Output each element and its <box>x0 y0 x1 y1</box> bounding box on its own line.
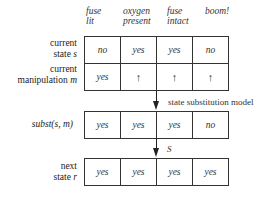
up-arrow-icon: ↑ <box>121 64 157 91</box>
cell: yes <box>121 159 157 186</box>
column-header-line: oxygen <box>123 6 151 16</box>
column-header-oxygen-present: oxygen present <box>123 6 151 26</box>
up-arrow-icon: ↑ <box>193 64 229 91</box>
cell: yes <box>121 37 157 64</box>
cell: yes <box>157 112 193 139</box>
cell: yes <box>85 112 121 139</box>
cell: yes <box>157 37 193 64</box>
column-header-line: lit <box>86 16 101 26</box>
row-label-line: manipulation m <box>18 75 77 86</box>
down-arrow-icon <box>153 101 159 110</box>
next-state-row: yes yes yes yes <box>85 159 229 186</box>
row-label-variable: s <box>73 49 77 59</box>
arrow-label-S: S <box>167 144 172 154</box>
row-label-variable: m <box>70 75 77 85</box>
next-state-grid: yes yes yes yes <box>84 158 229 186</box>
row-label-line: state r <box>54 172 78 183</box>
cell: no <box>85 37 121 64</box>
row-label-text: state <box>54 172 74 182</box>
up-arrow-icon: ↑ <box>157 64 193 91</box>
down-arrow-icon <box>153 148 159 157</box>
row-label-variable: r <box>73 172 77 182</box>
subst-row: yes yes yes no <box>85 112 229 139</box>
column-header-boom: boom! <box>205 6 229 16</box>
row-label-next-state: next state r <box>54 161 78 183</box>
column-header-line: fuse <box>86 6 101 16</box>
row-label-current-state: current state s <box>50 38 77 60</box>
row-label-line: current <box>50 38 77 49</box>
column-header-fuse-intact: fuse intact <box>167 6 189 26</box>
current-grid: no yes yes no yes ↑ ↑ ↑ <box>84 36 229 91</box>
row-label-subst: subst(s, m) <box>32 119 73 130</box>
arrow-label-state-substitution-model: state substitution model <box>168 97 254 107</box>
cell: yes <box>85 64 121 91</box>
column-header-line: boom! <box>205 6 229 16</box>
row-label-text: state <box>54 49 74 59</box>
row-label-line: next <box>54 161 78 172</box>
current-state-row: no yes yes no <box>85 37 229 64</box>
cell: yes <box>157 159 193 186</box>
cell: yes <box>193 159 229 186</box>
subst-grid: yes yes yes no <box>84 111 229 139</box>
row-label-text: subst(s, m) <box>32 119 73 129</box>
row-label-line: current <box>18 64 77 75</box>
cell: no <box>193 37 229 64</box>
column-header-line: intact <box>167 16 189 26</box>
cell: no <box>193 112 229 139</box>
current-manipulation-row: yes ↑ ↑ ↑ <box>85 64 229 91</box>
row-label-current-manipulation: current manipulation m <box>18 64 77 86</box>
cell: yes <box>121 112 157 139</box>
column-header-line: fuse <box>167 6 189 16</box>
row-label-text: manipulation <box>18 75 71 85</box>
column-header-fuse-lit: fuse lit <box>86 6 101 26</box>
column-header-line: present <box>123 16 151 26</box>
cell: yes <box>85 159 121 186</box>
row-label-line: state s <box>50 49 77 60</box>
